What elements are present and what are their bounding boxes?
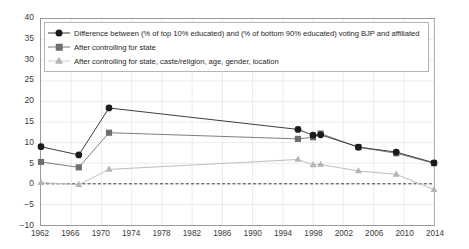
y-tick-label: 25 [0,75,34,84]
legend-label-difference: Difference between (% of top 10% educate… [74,29,419,38]
chart-legend: Difference between (% of top 10% educate… [44,22,429,72]
legend-item-full-controls: After controlling for state, caste/relig… [48,54,424,68]
x-tick-label: 2002 [335,229,353,239]
y-tick-label: −5 [0,200,34,209]
chart-container: −10−50510152025303540 Difference between… [0,0,469,249]
legend-label-full-controls: After controlling for state, caste/relig… [74,57,279,66]
x-tick-label: 1986 [213,229,231,239]
square-marker-icon [48,41,70,53]
x-tick-label: 1970 [92,229,110,239]
x-tick-label: 2014 [426,229,444,239]
x-tick-label: 2006 [365,229,383,239]
x-tick-label: 1990 [244,229,262,239]
y-tick-label: 20 [0,96,34,105]
y-tick-label: 0 [0,179,34,188]
y-tick-label: 35 [0,34,34,43]
x-tick-label: 1978 [152,229,170,239]
x-tick-label: 1994 [274,229,292,239]
y-tick-label: 30 [0,55,34,64]
x-tick-label: 1966 [61,229,79,239]
triangle-marker-icon [48,55,70,67]
legend-item-state: After controlling for state [48,40,424,54]
circle-marker-icon [48,27,70,39]
x-tick-label: 2010 [396,229,414,239]
legend-item-difference: Difference between (% of top 10% educate… [48,26,424,40]
legend-label-state: After controlling for state [74,43,156,52]
y-tick-label: 5 [0,159,34,168]
y-tick-label: 10 [0,138,34,147]
x-tick-label: 1998 [304,229,322,239]
x-tick-label: 1974 [122,229,140,239]
y-axis-labels: −10−50510152025303540 [0,0,36,249]
x-tick-label: 1982 [183,229,201,239]
x-axis-labels: 1962196619701974197819821986199019941998… [0,229,469,245]
y-tick-label: 40 [0,13,34,22]
y-tick-label: 15 [0,117,34,126]
x-tick-label: 1962 [31,229,49,239]
